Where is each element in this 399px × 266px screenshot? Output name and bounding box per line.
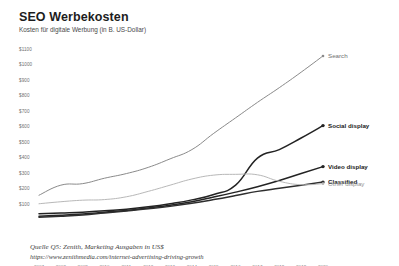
y-axis-tick-label: $600 xyxy=(19,124,30,129)
series-label-other-display: Other display xyxy=(328,181,364,187)
series-endpoint-search xyxy=(322,55,325,58)
series-endpoint-video-display xyxy=(321,165,324,168)
line-chart-svg xyxy=(19,38,381,224)
y-axis-tick-label: $400 xyxy=(19,155,30,160)
page-title: SEO Werbekosten xyxy=(19,10,129,24)
y-axis-tick-label: $300 xyxy=(19,171,30,176)
y-axis-tick-label: $700 xyxy=(19,109,30,114)
source-note: Quelle Q5: Zenith, Marketing Ausgaben in… xyxy=(30,243,164,251)
series-label-video-display: Video display xyxy=(328,164,368,170)
chart-page: SEO Werbekosten Kosten für digitale Werb… xyxy=(0,0,399,266)
y-axis-tick-label: $200 xyxy=(19,186,30,191)
series-endpoint-other-display xyxy=(322,182,325,185)
y-axis-tick-label: $1000 xyxy=(19,62,32,67)
y-axis-tick-label: $1100 xyxy=(19,47,32,52)
chart-plot-area xyxy=(19,38,381,224)
y-axis-tick-label: $900 xyxy=(19,78,30,83)
y-axis-tick-label: $500 xyxy=(19,140,30,145)
series-label-social-display: Social display xyxy=(328,123,369,129)
series-label-search: Search xyxy=(328,53,348,59)
series-line-search xyxy=(39,56,323,195)
series-endpoint-social-display xyxy=(321,124,324,127)
y-axis-tick-label: $800 xyxy=(19,93,30,98)
series-line-video-display xyxy=(39,167,323,217)
page-subtitle: Kosten für digitale Werbung (in B. US-Do… xyxy=(19,26,146,33)
source-url[interactable]: https://www.zenithmedia.com/internet-adv… xyxy=(30,253,204,260)
y-axis-tick-label: $100 xyxy=(19,202,30,207)
